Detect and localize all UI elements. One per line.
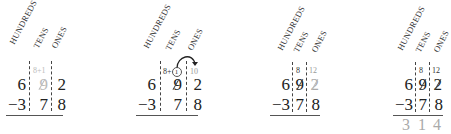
bottom-hundreds-digit: −3 [268,96,290,113]
bottom-ones-digit: 8 [188,96,202,113]
top-hundreds-digit: 6 [12,76,26,93]
tens-header: TENS [163,27,182,52]
tens-annotation-prefix: 8+ [163,67,172,76]
ones-annotation: 12 [309,67,317,75]
bottom-hundreds-digit: −3 [134,96,156,113]
bottom-tens-digit: 7 [168,96,182,113]
step-1-panel: HUNDREDS TENS ONES 8+1 6 9 2 −3 7 8 [0,0,112,134]
tens-header: TENS [413,29,432,54]
bottom-ones-digit: 8 [306,96,320,113]
answer-hundreds-digit: 3 [402,116,410,134]
ones-header: ONES [185,27,205,52]
bottom-tens-digit: 7 [34,96,48,113]
tens-annotation: 8 [419,67,423,75]
top-hundreds-digit: 6 [142,76,156,93]
tens-annotation: 8 [296,67,300,75]
bottom-ones-digit: 8 [52,96,66,113]
ones-header: ONES [49,25,69,50]
bottom-hundreds-digit: −3 [391,96,413,113]
subtraction-line [136,115,198,116]
tens-header: TENS [31,25,50,50]
column-divider [29,61,30,111]
bottom-tens-digit: 7 [290,96,304,113]
bottom-ones-digit: 8 [429,96,443,113]
ones-annotation: 12 [432,67,440,75]
column-divider [160,61,161,111]
bottom-hundreds-digit: −3 [4,96,26,113]
step-4-panel: HUNDREDS TENS ONES 8 12 6 9 2 −3 7 8 3 1… [340,0,451,134]
step-3-panel: HUNDREDS TENS ONES 8 12 6 9 2 −3 7 8 [236,0,348,134]
top-ones-digit: 2 [188,76,202,93]
subtraction-line [270,115,320,116]
tens-annotation: 8+1 [33,67,46,75]
ones-header: ONES [309,29,329,54]
top-ones-digit: 2 [52,76,66,93]
top-hundreds-digit: 6 [399,76,413,93]
top-hundreds-digit: 6 [276,76,290,93]
subtraction-line [6,115,63,116]
bottom-tens-digit: 7 [413,96,427,113]
answer-ones-digit: 4 [433,116,441,134]
tens-header: TENS [291,29,310,54]
ones-header: ONES [431,29,451,54]
step-2-panel: HUNDREDS TENS ONES 8+1 10 6 9 2 −3 7 8 [118,0,230,134]
answer-tens-digit: 1 [418,116,426,134]
